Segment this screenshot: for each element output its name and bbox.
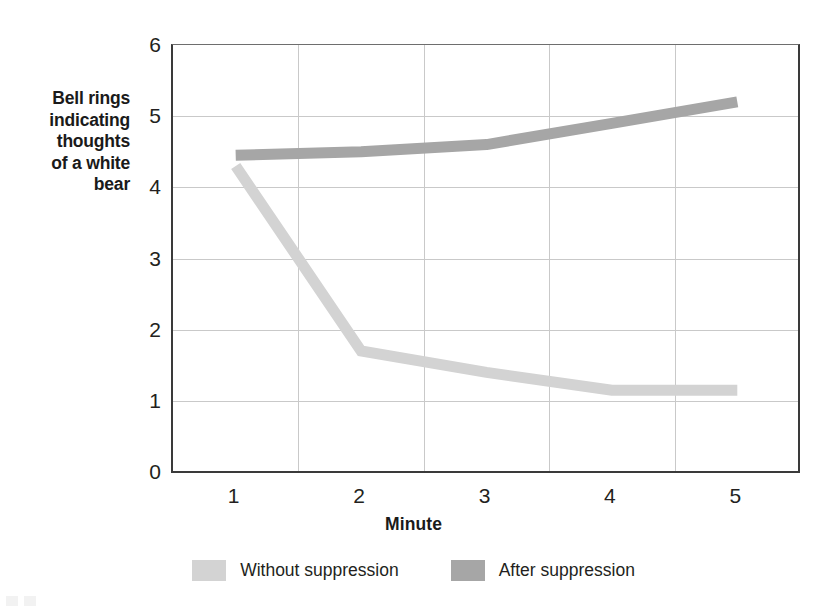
line-after-suppression: [236, 102, 738, 155]
legend-swatch: [192, 560, 226, 581]
y-tick-label: 6: [121, 34, 161, 55]
plot-area: [171, 44, 800, 473]
x-tick-label: 3: [455, 485, 515, 506]
y-axis-title: Bell rings indicating thoughts of a whit…: [8, 88, 130, 196]
y-tick-label: 0: [121, 461, 161, 482]
x-tick-label: 5: [705, 485, 765, 506]
y-tick-label: 4: [121, 176, 161, 197]
legend-item: Without suppression: [192, 560, 399, 581]
legend-label: Without suppression: [240, 562, 399, 580]
series-lines: [173, 45, 800, 472]
legend-item: After suppression: [451, 560, 635, 581]
line-without-suppression: [236, 166, 738, 390]
legend: Without suppressionAfter suppression: [0, 560, 827, 581]
legend-label: After suppression: [499, 562, 635, 580]
y-tick-label: 1: [121, 390, 161, 411]
x-tick-label: 4: [580, 485, 640, 506]
legend-swatch: [451, 560, 485, 581]
y-tick-label: 5: [121, 105, 161, 126]
chart-figure: Bell rings indicating thoughts of a whit…: [0, 0, 827, 610]
x-axis-title: Minute: [0, 514, 827, 535]
x-tick-label: 1: [204, 485, 264, 506]
scan-artifact: [6, 596, 18, 606]
scan-artifact: [24, 596, 36, 606]
y-tick-label: 3: [121, 248, 161, 269]
x-tick-label: 2: [329, 485, 389, 506]
y-tick-label: 2: [121, 319, 161, 340]
